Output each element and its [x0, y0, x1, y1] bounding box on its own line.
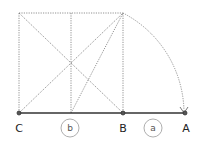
label-b: B: [119, 122, 127, 135]
label-a: A: [182, 122, 190, 135]
segment-a-label: a: [150, 123, 156, 133]
point-b: [121, 111, 125, 115]
segment-b-label: b: [67, 123, 73, 133]
label-c: C: [15, 122, 23, 135]
point-a: [183, 111, 187, 115]
half-diagonal: [71, 13, 123, 113]
compass-arc: [123, 13, 184, 113]
point-c: [17, 111, 21, 115]
golden-ratio-diagram: C B A b a: [0, 0, 208, 148]
